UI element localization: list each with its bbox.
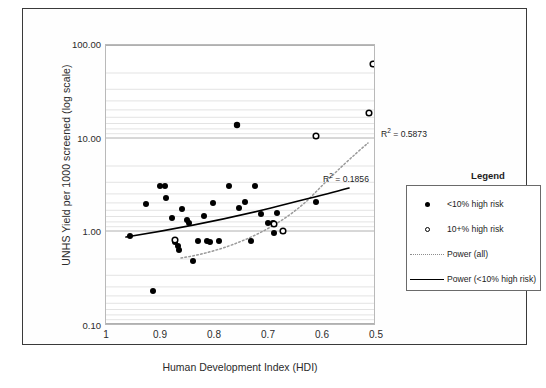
data-point	[127, 233, 133, 239]
series-low-risk-markers	[127, 122, 319, 294]
data-point	[271, 230, 277, 236]
data-point	[210, 200, 216, 206]
data-point	[201, 213, 207, 219]
data-point	[313, 133, 319, 139]
x-tick-0.9: 0.9	[143, 329, 177, 340]
legend-label-low-risk: <10% high risk	[447, 199, 504, 209]
data-point	[172, 237, 178, 243]
data-point	[186, 220, 192, 226]
x-tick-0.8: 0.8	[197, 329, 231, 340]
gridlines	[106, 73, 374, 320]
data-point	[190, 258, 196, 264]
x-tick-1: 1	[89, 329, 123, 340]
x-tick-0.5: 0.5	[359, 329, 393, 340]
r-squared-low-annotation: R2 = 0.1856	[323, 172, 369, 184]
legend-item-power-all[interactable]: Power (all)	[407, 242, 542, 266]
r2-all-value: = 0.5873	[391, 129, 427, 139]
x-axis-ticks: 1 0.9 0.8 0.7 0.6 0.5	[105, 329, 377, 345]
filled-circle-icon	[407, 192, 447, 216]
legend-box: <10% high risk 10+% high risk Power (all…	[406, 185, 541, 291]
data-point	[163, 195, 169, 201]
data-point	[195, 238, 201, 244]
data-point	[179, 206, 185, 212]
trendline-power-low	[126, 188, 349, 237]
legend-title: Legend	[453, 170, 523, 181]
y-tick-10: 10.00	[55, 132, 101, 143]
legend-label-power-all: Power (all)	[447, 249, 488, 259]
data-point	[242, 199, 248, 205]
data-point	[162, 183, 168, 189]
data-point	[234, 122, 240, 128]
x-axis-title: Human Development Index (HDI)	[105, 361, 375, 373]
solid-line-icon	[407, 267, 447, 291]
figure-frame: UNHS Yield per 1000 screened (log scale)…	[22, 8, 527, 345]
legend-label-high-risk: 10+% high risk	[447, 224, 504, 234]
major-gridlines	[106, 46, 374, 324]
data-point	[207, 239, 213, 245]
r2-low-value: = 0.1856	[333, 174, 369, 184]
data-point	[366, 110, 372, 116]
data-point	[271, 221, 277, 227]
data-point	[226, 183, 232, 189]
legend-label-power-low-risk: Power (<10% high risk)	[447, 274, 536, 284]
x-tick-0.7: 0.7	[251, 329, 285, 340]
data-point	[248, 238, 254, 244]
y-tick-100: 100.00	[55, 39, 101, 50]
data-point	[370, 61, 374, 67]
open-circle-icon	[407, 217, 447, 241]
chart-screenshot: UNHS Yield per 1000 screened (log scale)…	[0, 0, 546, 388]
y-axis-ticks: 100.00 10.00 1.00 0.10	[51, 44, 101, 325]
scatter-svg	[106, 45, 374, 324]
legend-item-low-risk[interactable]: <10% high risk	[407, 192, 542, 216]
data-point	[274, 210, 280, 216]
data-point	[313, 199, 319, 205]
dotted-line-icon	[407, 242, 447, 266]
data-point	[176, 247, 182, 253]
r-squared-all-annotation: R2 = 0.5873	[381, 127, 427, 139]
data-point	[150, 288, 156, 294]
data-point	[252, 183, 258, 189]
plot-area	[105, 44, 375, 325]
legend-item-power-low-risk[interactable]: Power (<10% high risk)	[407, 267, 542, 291]
y-tick-1: 1.00	[55, 226, 101, 237]
data-point	[143, 201, 149, 207]
x-tick-0.6: 0.6	[305, 329, 339, 340]
data-point	[258, 211, 264, 217]
data-point	[216, 238, 222, 244]
legend-item-high-risk[interactable]: 10+% high risk	[407, 217, 542, 241]
data-point	[169, 215, 175, 221]
data-point	[280, 228, 286, 234]
data-point	[236, 205, 242, 211]
